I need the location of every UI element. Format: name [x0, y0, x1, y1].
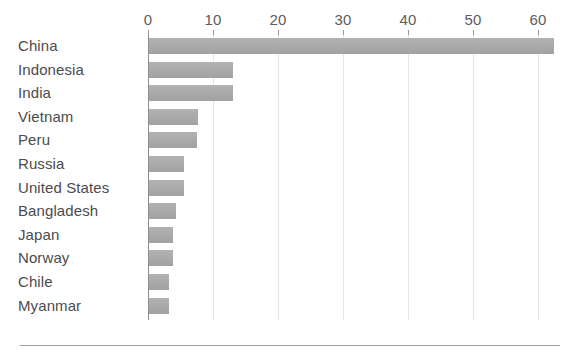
bar-indonesia: [149, 62, 233, 78]
gridline-60: [538, 34, 539, 320]
bar-bangladesh: [149, 203, 176, 219]
category-label-chile: Chile: [18, 273, 53, 290]
gridline-50: [473, 34, 474, 320]
chart-page: 0102030405060 ChinaIndonesiaIndiaVietnam…: [0, 0, 573, 357]
x-tick-label-50: 50: [464, 11, 481, 28]
axis-tick-50: [473, 30, 474, 35]
axis-tick-40: [408, 30, 409, 35]
gridline-40: [408, 34, 409, 320]
x-tick-label-10: 10: [204, 11, 221, 28]
axis-tick-0: [148, 30, 149, 35]
x-tick-label-20: 20: [269, 11, 286, 28]
bar-russia: [149, 156, 184, 172]
bar-vietnam: [149, 109, 198, 125]
gridline-30: [343, 34, 344, 320]
axis-tick-20: [278, 30, 279, 35]
bar-chile: [149, 274, 169, 290]
category-label-vietnam: Vietnam: [18, 108, 73, 125]
bar-myanmar: [149, 298, 169, 314]
category-label-japan: Japan: [18, 226, 59, 243]
category-label-united-states: United States: [18, 179, 109, 196]
category-label-peru: Peru: [18, 131, 50, 148]
bar-china: [149, 38, 554, 54]
x-tick-label-40: 40: [399, 11, 416, 28]
bar-norway: [149, 250, 173, 266]
bar-india: [149, 85, 233, 101]
category-label-india: India: [18, 84, 51, 101]
axis-tick-30: [343, 30, 344, 35]
x-tick-label-0: 0: [144, 11, 153, 28]
bar-peru: [149, 132, 197, 148]
category-label-norway: Norway: [18, 249, 69, 266]
bar-united-states: [149, 180, 184, 196]
category-label-indonesia: Indonesia: [18, 61, 84, 78]
category-label-china: China: [18, 37, 58, 54]
axis-tick-10: [213, 30, 214, 35]
gridline-20: [278, 34, 279, 320]
category-label-myanmar: Myanmar: [18, 297, 81, 314]
axis-tick-60: [538, 30, 539, 35]
x-tick-label-60: 60: [529, 11, 546, 28]
bottom-divider: [20, 345, 560, 346]
plot-area: [148, 34, 560, 324]
x-tick-label-30: 30: [334, 11, 351, 28]
category-label-russia: Russia: [18, 155, 64, 172]
category-label-bangladesh: Bangladesh: [18, 202, 98, 219]
bar-japan: [149, 227, 173, 243]
